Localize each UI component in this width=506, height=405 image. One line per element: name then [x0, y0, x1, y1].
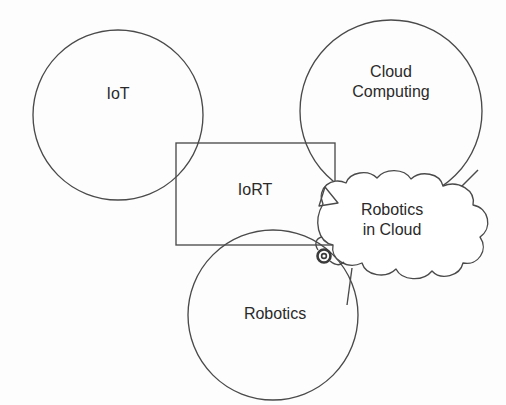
shapes-layer	[33, 20, 488, 400]
iot-circle[interactable]	[33, 30, 203, 200]
knot-mark-outer-icon	[318, 250, 331, 263]
robotics-circle[interactable]	[188, 230, 358, 400]
cloud-to-cloud-computing-connector	[462, 170, 478, 186]
iort-rectangle[interactable]	[176, 143, 335, 245]
knot-mark-inner-icon	[322, 254, 327, 259]
diagram-canvas	[0, 0, 506, 405]
venn-diagram: IoT CloudComputing IoRT Roboticsin Cloud…	[0, 0, 506, 405]
